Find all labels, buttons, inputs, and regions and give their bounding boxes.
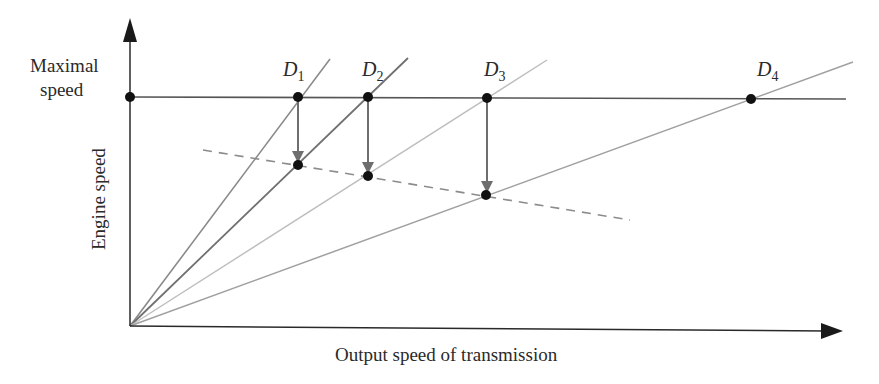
max-speed-label-line2: speed — [40, 79, 84, 100]
upshift-point-d2 — [363, 92, 373, 102]
post-shift-point-d3 — [363, 171, 373, 181]
post-shift-point-d4 — [481, 190, 491, 200]
gear-subscript: 1 — [297, 69, 304, 84]
gear-letter: D — [282, 58, 298, 80]
max-speed-axis-point — [125, 92, 135, 102]
y-axis-arrow-icon — [123, 18, 137, 42]
gear-label-d3: D3 — [483, 58, 505, 84]
gear-shift-diagram: Maximal speed Engine speed Output speed … — [0, 0, 879, 384]
gear-letter: D — [756, 58, 772, 80]
max-speed-point-d4 — [746, 94, 756, 104]
gear-letter: D — [361, 58, 377, 80]
post-shift-dashed-line — [203, 150, 630, 220]
x-axis-label: Output speed of transmission — [335, 344, 558, 365]
points-group — [125, 92, 756, 200]
upshift-point-d3 — [482, 93, 492, 103]
gear-label-d1: D1 — [282, 58, 304, 84]
gear-letter: D — [483, 58, 499, 80]
max-speed-label-line1: Maximal — [30, 55, 99, 76]
post-shift-point-d2 — [293, 160, 303, 170]
x-axis-arrow-icon — [821, 323, 843, 339]
gear-line-d4 — [130, 62, 853, 326]
x-axis — [130, 326, 826, 331]
gear-subscript: 4 — [771, 69, 778, 84]
upshift-point-d1 — [293, 92, 303, 102]
gear-subscript: 3 — [498, 69, 505, 84]
gear-label-d2: D2 — [361, 58, 383, 84]
y-axis-label: Engine speed — [88, 148, 109, 250]
gear-subscript: 2 — [376, 69, 383, 84]
gear-label-d4: D4 — [756, 58, 778, 84]
